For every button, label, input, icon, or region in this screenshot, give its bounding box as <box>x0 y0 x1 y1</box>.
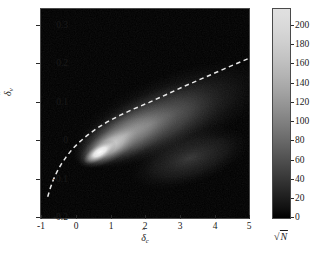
y-tick-label: 0.2 <box>56 58 68 68</box>
colorbar-tick-label: 100 <box>295 116 309 126</box>
heatmap-plot-area <box>40 8 250 219</box>
colorbar-tickmark <box>291 140 294 141</box>
colorbar-tick-label: 200 <box>295 20 309 30</box>
y-tick-label: -0.2 <box>53 212 68 222</box>
colorbar-tick-label: 160 <box>295 58 309 68</box>
colorbar-tick-label: 60 <box>295 155 305 165</box>
x-tick-label: 1 <box>109 221 114 232</box>
colorbar-tickmark <box>291 179 294 180</box>
colorbar-tick-label: 140 <box>295 78 309 88</box>
y-label-hat: ˆ <box>0 92 7 95</box>
y-tickmark <box>36 179 40 180</box>
x-tick-label: 3 <box>178 221 183 232</box>
colorbar-tickmark <box>291 63 294 64</box>
x-tickmark <box>111 215 112 219</box>
x-tickmark <box>180 215 181 219</box>
colorbar-tick-label: 40 <box>295 174 305 184</box>
y-tick-label: 0.1 <box>56 97 68 107</box>
colorbar-tick-label: 120 <box>295 97 309 107</box>
x-tickmark <box>41 215 42 219</box>
x-tick-label: 0 <box>74 221 79 232</box>
x-tick-label: 5 <box>247 221 252 232</box>
y-tickmark <box>36 102 40 103</box>
x-axis-label: ˆδc <box>141 232 149 244</box>
colorbar-tickmark <box>291 217 294 218</box>
x-tick-label: -1 <box>37 221 45 232</box>
model-curve <box>40 8 250 219</box>
colorbar-label-radical: √ <box>274 231 280 242</box>
colorbar-tickmark <box>291 83 294 84</box>
y-tickmark <box>36 63 40 64</box>
x-tickmark <box>215 215 216 219</box>
colorbar-tickmark <box>291 25 294 26</box>
y-tickmark <box>36 217 40 218</box>
colorbar-tickmark <box>291 198 294 199</box>
colorbar-tickmark <box>291 160 294 161</box>
y-tick-label: 0.3 <box>56 20 68 30</box>
y-tickmark <box>36 140 40 141</box>
colorbar-label-symbol: N <box>279 230 288 242</box>
y-axis-label: ˆδv <box>2 88 14 96</box>
colorbar-tickmark <box>291 44 294 45</box>
x-tickmark <box>249 215 250 219</box>
y-tick-label: 0 <box>63 135 68 145</box>
colorbar-tick-label: 0 <box>295 212 300 222</box>
colorbar-tick-label: 20 <box>295 193 305 203</box>
colorbar-tickmark <box>291 121 294 122</box>
x-tickmark <box>76 215 77 219</box>
colorbar-label: √N <box>274 231 288 242</box>
colorbar <box>272 8 291 219</box>
x-tickmark <box>145 215 146 219</box>
x-label-subscript: c <box>146 237 149 244</box>
y-tick-label: -0.1 <box>53 174 68 184</box>
colorbar-tickmark <box>291 102 294 103</box>
x-label-hat: ˆ <box>142 228 145 237</box>
x-tick-label: 4 <box>213 221 218 232</box>
colorbar-tick-label: 80 <box>295 135 305 145</box>
colorbar-tick-label: 180 <box>295 39 309 49</box>
y-tickmark <box>36 25 40 26</box>
figure-canvas: 0.3 0.2 0.1 0 -0.1 -0.2 -1 0 1 2 3 4 5 ˆ… <box>0 0 321 254</box>
